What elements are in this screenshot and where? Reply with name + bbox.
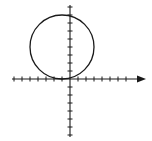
x-axis-arrow-icon (137, 76, 146, 83)
axes (12, 5, 146, 137)
circle (30, 15, 94, 79)
coordinate-plane (0, 0, 152, 141)
